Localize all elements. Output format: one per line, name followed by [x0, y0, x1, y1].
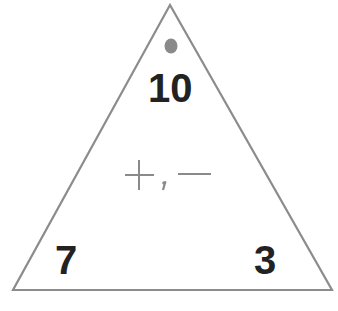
bottom-left-number: 7: [55, 240, 77, 280]
operations-label: [121, 156, 221, 196]
bottom-right-number: 3: [254, 240, 276, 280]
plus-minus-icon: [121, 156, 221, 196]
dot-icon: [165, 39, 178, 54]
top-number: 10: [148, 68, 193, 108]
